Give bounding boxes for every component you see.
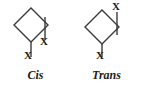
isomer-name-trans: Trans bbox=[71, 69, 142, 82]
structure-trans: X X Trans bbox=[71, 0, 142, 91]
structure-cis: X X Cis bbox=[0, 0, 71, 91]
chemical-structure-figure: X X Cis X X Trans bbox=[0, 0, 142, 91]
trans-substituent-label-bottom: X bbox=[96, 50, 104, 61]
cis-substituent-label-right: X bbox=[40, 36, 48, 47]
cis-substituent-label-bottom: X bbox=[24, 50, 32, 61]
isomer-name-cis: Cis bbox=[0, 69, 71, 82]
cyclobutane-ring-bond-path bbox=[85, 10, 119, 44]
trans-substituent-label-top: X bbox=[112, 1, 120, 12]
